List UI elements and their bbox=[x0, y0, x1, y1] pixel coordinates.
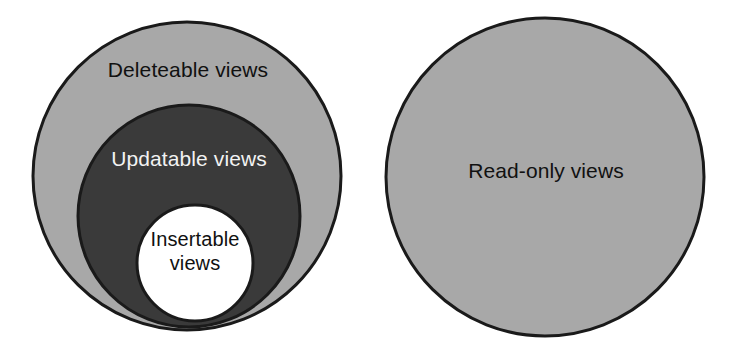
venn-diagram: Deleteable views Updatable views Inserta… bbox=[0, 0, 740, 350]
insertable-views-label: Insertable views bbox=[131, 228, 259, 275]
updatable-views-label: Updatable views bbox=[78, 147, 300, 172]
read-only-views-label: Read-only views bbox=[420, 159, 672, 184]
deleteable-views-label: Deleteable views bbox=[60, 58, 316, 83]
